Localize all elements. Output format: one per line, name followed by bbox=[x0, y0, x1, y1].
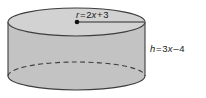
height-constant: 4 bbox=[179, 43, 184, 54]
height-label: h=3x–4 bbox=[150, 44, 185, 54]
cylinder-figure: r=2x+3 h=3x–4 bbox=[0, 0, 206, 98]
radius-label: r=2x+3 bbox=[76, 10, 109, 20]
center-dot bbox=[75, 20, 80, 25]
radius-constant: 3 bbox=[103, 9, 108, 20]
height-variable: x bbox=[168, 43, 173, 54]
radius-variable: x bbox=[92, 9, 97, 20]
